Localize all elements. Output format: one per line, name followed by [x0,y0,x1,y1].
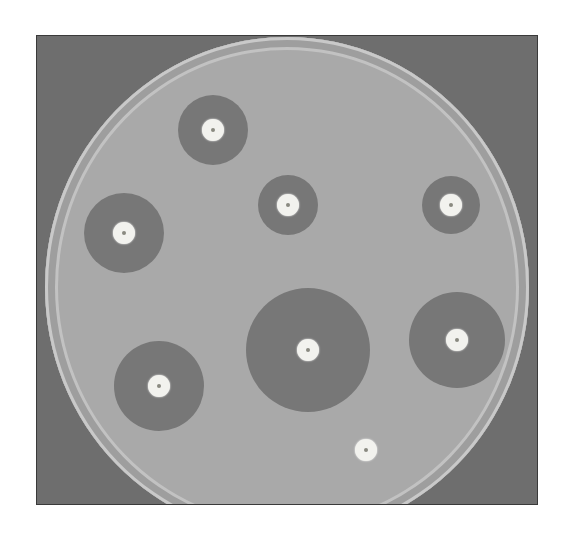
antibiotic-disk [440,194,462,216]
image-description: Petri dish showing antibiotic disk diffu… [0,0,1,1]
antibiotic-disk [113,222,135,244]
antibiotic-disk [355,439,377,461]
antibiotic-disk [277,194,299,216]
antibiotic-disk [446,329,468,351]
antibiotic-disk [297,339,319,361]
antibiotic-disk [148,375,170,397]
antibiotic-disk [202,119,224,141]
